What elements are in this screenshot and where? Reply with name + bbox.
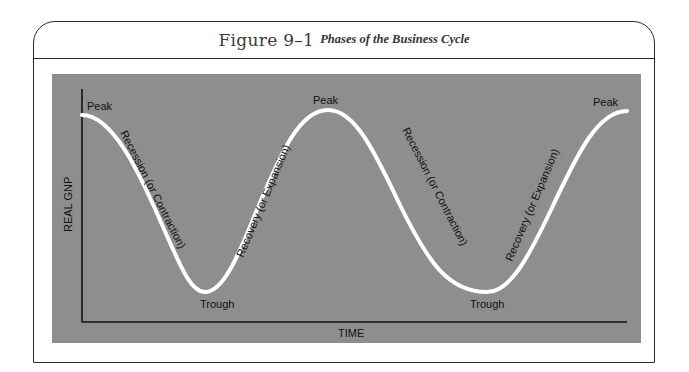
peak-label-1: Peak bbox=[87, 100, 113, 112]
y-axis-label: REAL GNP bbox=[62, 177, 74, 232]
peak-label-2: Peak bbox=[313, 94, 339, 106]
business-cycle-chart: Peak Peak Peak Trough Trough Recession (… bbox=[0, 0, 689, 372]
recovery-label-1: Recovery (or Expansion) bbox=[234, 143, 292, 259]
peak-label-3: Peak bbox=[593, 96, 619, 108]
x-axis-label: TIME bbox=[338, 327, 364, 339]
trough-label-1: Trough bbox=[200, 298, 234, 310]
trough-label-2: Trough bbox=[470, 298, 504, 310]
recession-label-1: Recession (or Contraction) bbox=[118, 128, 188, 250]
